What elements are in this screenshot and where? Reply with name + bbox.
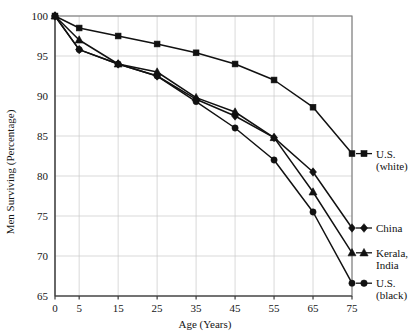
data-point: [76, 46, 82, 52]
x-tick-label: 65: [308, 302, 320, 314]
x-axis-title: Age (Years): [179, 318, 232, 331]
y-tick-label: 90: [37, 90, 49, 102]
legend-label: U.S.: [376, 277, 396, 289]
data-point: [310, 209, 316, 215]
y-tick-label: 95: [37, 50, 49, 62]
chart-background: [0, 0, 420, 334]
x-tick-label: 55: [269, 302, 281, 314]
y-tick-label: 100: [32, 10, 49, 22]
y-tick-label: 75: [37, 210, 49, 222]
x-tick-label: 15: [113, 302, 125, 314]
survival-line-chart: 65707580859095100 0515253545556575 U.S.(…: [0, 0, 420, 334]
x-tick-label: 75: [347, 302, 359, 314]
legend-marker-square: [361, 151, 367, 157]
data-point: [271, 157, 277, 163]
data-point: [271, 77, 277, 83]
y-tick-label: 65: [37, 290, 49, 302]
data-point: [52, 13, 58, 19]
data-point: [154, 41, 160, 47]
legend-label: U.S.: [376, 148, 396, 160]
x-tick-label: 35: [191, 302, 203, 314]
y-tick-label: 85: [37, 130, 49, 142]
legend-label: China: [376, 222, 402, 234]
x-tick-label: 45: [230, 302, 242, 314]
data-point: [232, 125, 238, 131]
y-axis-title: Men Surviving (Percentage): [4, 109, 17, 234]
data-point: [232, 61, 238, 67]
data-point: [310, 104, 316, 110]
legend-label-line2: (white): [376, 160, 408, 173]
data-point: [349, 280, 355, 286]
legend-label-line2: India: [376, 259, 399, 271]
y-tick-label: 70: [37, 250, 49, 262]
y-tick-label: 80: [37, 170, 49, 182]
x-tick-label: 0: [52, 302, 58, 314]
x-tick-label: 5: [76, 302, 82, 314]
legend-marker-circle: [361, 280, 367, 286]
data-point: [154, 73, 160, 79]
data-point: [76, 25, 82, 31]
data-point: [193, 98, 199, 104]
data-point: [193, 50, 199, 56]
chart-container: 65707580859095100 0515253545556575 U.S.(…: [0, 0, 420, 334]
data-point: [349, 151, 355, 157]
data-point: [115, 33, 121, 39]
data-point: [115, 61, 121, 67]
x-tick-label: 25: [152, 302, 164, 314]
legend-label-line2: (black): [376, 289, 407, 302]
legend-label: Kerala,: [376, 247, 408, 259]
